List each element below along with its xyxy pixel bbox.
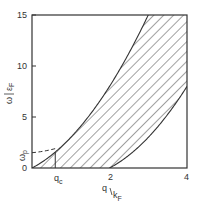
x-tick-label-2: 2 (108, 172, 113, 182)
y-axis-label: ω εF (4, 83, 15, 104)
svg-text:ω: ω (4, 97, 14, 104)
y-tick-label-0: 0 (22, 163, 27, 173)
qc-label: qc (54, 173, 63, 185)
svg-text:εF: εF (4, 83, 15, 91)
svg-text:ωp: ωp (17, 150, 29, 161)
svg-text:kF: kF (113, 190, 122, 202)
y-tick-label-10: 10 (17, 61, 27, 71)
y-tick-label-5: 5 (22, 112, 27, 122)
svg-text:q: q (102, 183, 107, 193)
x-tick-label-4: 4 (184, 172, 189, 182)
y-tick-label-15: 15 (17, 10, 27, 20)
x-axis-label: q kF (102, 183, 122, 202)
electron-gas-excitation-chart: 0 5 10 15 ωp 2 4 qc ω εF q kF (0, 0, 198, 214)
omega-p-label: ωp (17, 150, 29, 161)
plasmon-dispersion-curve (32, 149, 55, 153)
